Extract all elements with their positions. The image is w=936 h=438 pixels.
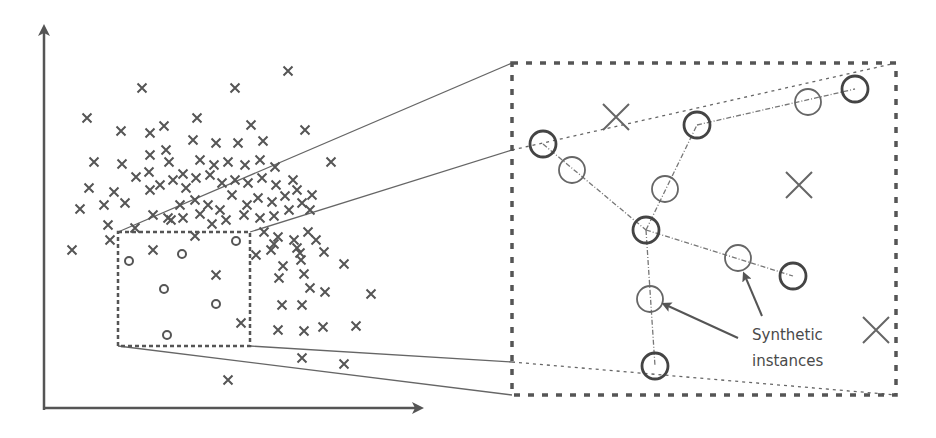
majority-point-x xyxy=(352,322,361,331)
majority-point-x xyxy=(306,284,315,293)
synthetic-instance-circle xyxy=(725,245,751,271)
minority-point-o xyxy=(163,331,171,339)
majority-point-x xyxy=(193,114,202,123)
synthetic-minority-points xyxy=(559,89,821,312)
majority-point-x xyxy=(224,376,233,385)
majority-point-x xyxy=(146,151,155,160)
arrow-to-synthetic-2 xyxy=(745,276,762,316)
majority-point-x xyxy=(298,301,307,310)
majority-point-x xyxy=(260,228,269,237)
majority-point-x xyxy=(312,236,321,245)
majority-point-x-large xyxy=(863,317,889,343)
majority-point-x xyxy=(327,158,336,167)
majority-point-x xyxy=(100,201,109,210)
minority-point-o xyxy=(160,285,168,293)
majority-point-x xyxy=(206,171,215,180)
majority-point-x xyxy=(222,216,231,225)
majority-point-x xyxy=(104,221,113,230)
majority-point-x xyxy=(285,206,294,215)
majority-point-x xyxy=(132,173,141,182)
majority-point-x xyxy=(231,84,240,93)
majority-point-x xyxy=(308,191,317,200)
minority-class-points-left xyxy=(125,237,240,339)
majority-point-x xyxy=(252,251,261,260)
majority-point-x xyxy=(192,174,201,183)
majority-point-x xyxy=(156,181,165,190)
majority-point-x xyxy=(279,262,288,271)
majority-point-x xyxy=(293,186,302,195)
majority-point-x xyxy=(321,288,330,297)
majority-point-x xyxy=(167,216,176,225)
majority-point-x xyxy=(272,181,281,190)
majority-point-x xyxy=(241,161,250,170)
minority-point-o xyxy=(212,300,220,308)
majority-point-x xyxy=(76,205,85,214)
majority-point-x xyxy=(179,214,188,223)
majority-point-x xyxy=(278,301,287,310)
majority-point-x xyxy=(270,212,279,221)
interpolation-line xyxy=(646,230,793,276)
majority-point-x xyxy=(224,158,233,167)
minority-point-o xyxy=(232,237,240,245)
majority-point-x xyxy=(300,327,309,336)
majority-point-x xyxy=(237,319,246,328)
majority-point-x xyxy=(212,139,221,148)
majority-point-x xyxy=(297,256,306,265)
majority-point-x xyxy=(196,156,205,165)
majority-point-x xyxy=(244,179,253,188)
majority-point-x xyxy=(275,274,284,283)
majority-point-x xyxy=(289,176,298,185)
majority-point-x xyxy=(149,246,158,255)
majority-point-x xyxy=(210,161,219,170)
majority-point-x xyxy=(274,326,283,335)
majority-point-x xyxy=(256,156,265,165)
majority-point-x xyxy=(367,290,376,299)
majority-point-x xyxy=(259,137,268,146)
synthetic-instance-circle xyxy=(559,157,585,183)
majority-point-x xyxy=(258,174,267,183)
majority-point-x xyxy=(271,163,280,172)
majority-point-x xyxy=(145,168,154,177)
majority-point-x xyxy=(240,211,249,220)
majority-point-x xyxy=(268,198,277,207)
majority-point-x xyxy=(68,246,77,255)
majority-point-x xyxy=(234,139,243,148)
majority-point-x xyxy=(169,176,178,185)
majority-point-x xyxy=(85,184,94,193)
majority-point-x xyxy=(320,248,329,257)
majority-point-x xyxy=(118,160,127,169)
majority-point-x xyxy=(146,186,155,195)
majority-point-x xyxy=(319,323,328,332)
annotation-line-2: instances xyxy=(752,348,823,374)
majority-point-x xyxy=(218,179,227,188)
majority-point-x xyxy=(208,220,217,229)
majority-point-x xyxy=(179,170,188,179)
majority-point-x xyxy=(298,354,307,363)
majority-point-x xyxy=(243,201,252,210)
majority-point-x xyxy=(212,271,221,280)
majority-point-x xyxy=(138,84,147,93)
interpolation-line xyxy=(697,89,855,125)
majority-point-x xyxy=(300,270,309,279)
majority-point-x xyxy=(340,360,349,369)
majority-class-points-left xyxy=(68,67,376,385)
majority-point-x xyxy=(228,191,237,200)
majority-point-x xyxy=(204,201,213,210)
interpolation-line xyxy=(543,144,646,230)
majority-point-x xyxy=(254,194,263,203)
minority-point-o xyxy=(178,250,186,258)
majority-point-x xyxy=(301,126,310,135)
majority-point-x xyxy=(182,184,191,193)
majority-point-x xyxy=(106,236,115,245)
arrow-to-synthetic-1 xyxy=(666,305,738,338)
majority-point-x xyxy=(117,127,126,136)
majority-point-x xyxy=(162,146,171,155)
majority-point-x-large xyxy=(786,172,812,198)
annotation-arrows xyxy=(666,276,762,338)
interpolation-line xyxy=(646,230,655,366)
majority-point-x xyxy=(160,122,169,131)
majority-point-x xyxy=(284,67,293,76)
majority-point-x xyxy=(176,201,185,210)
majority-point-x xyxy=(146,129,155,138)
majority-point-x xyxy=(121,199,130,208)
